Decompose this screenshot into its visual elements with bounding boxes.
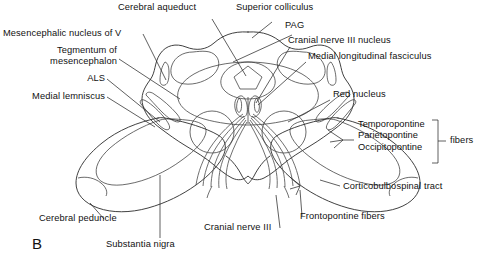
- cranial-nerve-iii-nucleus-group: [235, 96, 262, 124]
- mlf-right: [254, 98, 259, 112]
- leader-medial-longitudinal-fasciculus: [258, 62, 306, 105]
- mesencephalic-nucleus-of-v-group: [160, 62, 336, 85]
- leader-tegmentum: [119, 59, 180, 99]
- figure-canvas: .ol{fill:none;stroke:#2b2b2b;stroke-widt…: [0, 0, 496, 265]
- label-fibers-bracket: fibers: [450, 135, 473, 146]
- label-parietopontine: Parietopontine: [358, 130, 425, 141]
- leader-corticobulbospinal-tract: [320, 180, 340, 186]
- fiber-group-bracket: [432, 120, 438, 163]
- leader-mesencephalic-nucleus-of-v: [143, 34, 166, 80]
- panel-letter: B: [32, 236, 42, 251]
- label-temporopontine: Temporopontine: [358, 119, 425, 130]
- arrow-frontopontine: [290, 177, 300, 195]
- mesencephalic-nucleus-of-v-left: [160, 62, 169, 85]
- label-medial-lemniscus: Medial lemniscus: [0, 91, 105, 102]
- leader-cranial-nerve-iii-nucleus: [256, 47, 290, 103]
- label-corticobulbospinal-tract: Corticobulbospinal tract: [343, 181, 443, 192]
- fiber-group-bracket-group: [432, 120, 446, 163]
- label-medial-longitudinal-fasciculus: Medial longitudinal fasciculus: [308, 51, 431, 62]
- leader-cranial-nerve-iii: [276, 195, 280, 228]
- cranial-nerve-iii-fibers-group: [196, 114, 300, 198]
- leader-als: [107, 79, 160, 122]
- cn3-exit-right: [284, 186, 289, 198]
- label-superior-colliculus: Superior colliculus: [236, 2, 313, 13]
- label-occipitopontine: Occipitopontine: [358, 142, 425, 153]
- label-cerebral-peduncle: Cerebral peduncle: [39, 213, 117, 224]
- label-tegmentum-line1: Tegmentum of: [0, 45, 117, 56]
- interpeduncular-fossa-group: [226, 156, 270, 184]
- mlf-left: [237, 98, 242, 112]
- leader-superior-colliculus: [252, 22, 272, 38]
- cerebral-aqueduct: [234, 66, 262, 89]
- label-frontopontine-fibers: Frontopontine fibers: [300, 211, 385, 222]
- superior-colliculus-left: [171, 51, 219, 84]
- label-mesencephalic-nucleus-of-v: Mesencephalic nucleus of V: [3, 28, 121, 39]
- label-cranial-nerve-iii: Cranial nerve III: [204, 222, 271, 233]
- label-cranial-nerve-iii-nucleus: Cranial nerve III nucleus: [288, 35, 391, 46]
- mesencephalic-nucleus-of-v-right: [327, 62, 336, 85]
- substantia-nigra-left: [96, 119, 206, 185]
- cerebral-peduncle-left: [76, 118, 225, 212]
- label-tegmentum-line2: mesencephalon: [0, 56, 117, 67]
- interpeduncular-fossa: [226, 156, 270, 184]
- periaqueductal-gray: [221, 62, 275, 99]
- superior-colliculus-group: [171, 51, 325, 84]
- label-als: ALS: [0, 73, 105, 84]
- label-substantia-nigra: Substantia nigra: [106, 239, 175, 250]
- cn3-exit-left: [207, 186, 212, 198]
- label-cerebral-aqueduct: Cerebral aqueduct: [118, 2, 196, 13]
- fiber-group-labels: Temporopontine Parietopontine Occipitopo…: [358, 119, 425, 153]
- pointer-arrows-group: [290, 130, 343, 195]
- label-pag: PAG: [285, 20, 304, 31]
- periaqueductal-gray-group: [221, 62, 275, 99]
- peduncle-fold-left: [78, 177, 107, 196]
- label-red-nucleus: Red nucleus: [333, 89, 386, 100]
